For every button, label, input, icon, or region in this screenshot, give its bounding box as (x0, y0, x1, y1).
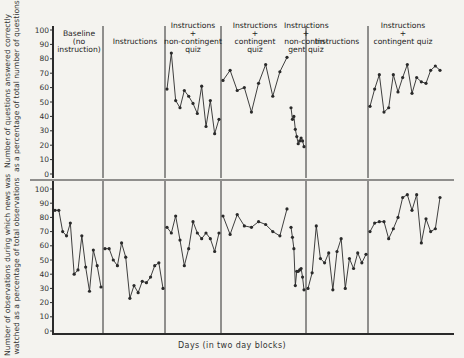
svg-text:100: 100 (35, 185, 50, 194)
data-point (257, 82, 260, 85)
data-point (368, 105, 371, 108)
svg-text:70: 70 (39, 69, 49, 78)
data-point (174, 214, 177, 217)
data-point (292, 247, 295, 250)
data-point (406, 63, 409, 66)
data-point (116, 264, 119, 267)
data-point (88, 290, 91, 293)
data-point (340, 237, 343, 240)
data-point (170, 231, 173, 234)
data-point (243, 224, 246, 227)
svg-text:10: 10 (39, 312, 49, 321)
svg-text:90: 90 (39, 40, 49, 49)
data-point (300, 136, 303, 139)
data-point (302, 288, 305, 291)
data-point (278, 234, 281, 237)
data-point (217, 118, 220, 121)
data-point (73, 273, 76, 276)
data-point (213, 250, 216, 253)
series-line (223, 209, 287, 236)
phase-label-contingent-1: Instructions + contingent quiz (220, 22, 290, 54)
phase-label-contingent-2: Instructions + contingent quiz (368, 22, 438, 46)
data-point (348, 257, 351, 260)
data-point (387, 106, 390, 109)
data-point (124, 256, 127, 259)
data-point (191, 102, 194, 105)
svg-text:40: 40 (39, 270, 49, 279)
data-point (396, 90, 399, 93)
x-axis-label: Days (in two day blocks) (0, 341, 464, 350)
data-point (420, 241, 423, 244)
data-point (315, 224, 318, 227)
svg-text:40: 40 (39, 112, 49, 121)
data-point (200, 85, 203, 88)
data-point (112, 258, 115, 261)
svg-text:0: 0 (44, 170, 49, 179)
data-point (271, 230, 274, 233)
svg-text:30: 30 (39, 284, 49, 293)
data-point (264, 223, 267, 226)
data-point (65, 234, 68, 237)
data-point (352, 267, 355, 270)
data-point (57, 209, 60, 212)
data-point (382, 220, 385, 223)
data-point (302, 145, 305, 148)
data-point (221, 214, 224, 217)
data-point (373, 87, 376, 90)
data-point (257, 220, 260, 223)
data-point (289, 106, 292, 109)
data-point (387, 237, 390, 240)
bottom-y-axis-label-line2: watched as a percentage of total observa… (12, 176, 21, 356)
data-point (311, 271, 314, 274)
data-point (364, 253, 367, 256)
data-point (213, 132, 216, 135)
data-point (289, 226, 292, 229)
data-point (141, 280, 144, 283)
data-point (438, 69, 441, 72)
data-point (99, 285, 102, 288)
data-point (84, 266, 87, 269)
data-point (149, 275, 152, 278)
data-point (200, 237, 203, 240)
data-point (196, 231, 199, 234)
svg-text:60: 60 (39, 83, 49, 92)
data-point (165, 226, 168, 229)
data-point (319, 257, 322, 260)
svg-text:50: 50 (39, 98, 49, 107)
data-point (250, 226, 253, 229)
data-point (294, 284, 297, 287)
data-point (401, 196, 404, 199)
series-line (167, 216, 219, 266)
data-point (187, 247, 190, 250)
data-point (291, 236, 294, 239)
data-point (291, 118, 294, 121)
data-point (187, 95, 190, 98)
data-point (378, 73, 381, 76)
data-point (209, 237, 212, 240)
phase-label-instructions-2: Instructions (306, 38, 368, 46)
data-point (382, 110, 385, 113)
data-point (108, 247, 111, 250)
data-point (285, 207, 288, 210)
data-point (335, 250, 338, 253)
data-point (145, 281, 148, 284)
data-point (243, 86, 246, 89)
phase-label-instructions-1: Instructions (104, 38, 166, 46)
data-point (96, 264, 99, 267)
data-point (424, 217, 427, 220)
data-point (137, 291, 140, 294)
data-point (229, 233, 232, 236)
phase-label-noncontingent-1: Instructions + non-contingent quiz (164, 22, 222, 54)
data-point (434, 64, 437, 67)
data-point (61, 230, 64, 233)
panel-bottom: 0102030405060708090100 (35, 181, 442, 336)
data-point (301, 139, 304, 142)
data-point (80, 234, 83, 237)
series-line (370, 65, 440, 113)
data-point (204, 231, 207, 234)
svg-text:20: 20 (39, 298, 49, 307)
svg-text:10: 10 (39, 155, 49, 164)
data-point (300, 267, 303, 270)
data-point (356, 251, 359, 254)
data-point (165, 87, 168, 90)
